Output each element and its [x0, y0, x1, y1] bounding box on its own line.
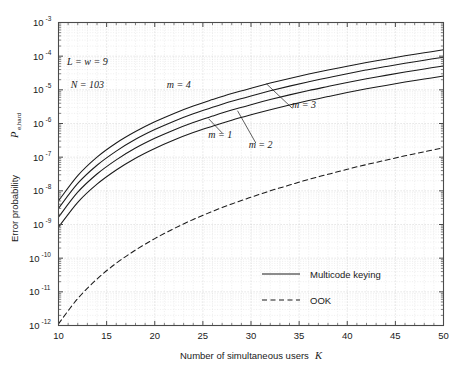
x-tick-label: 25: [198, 330, 209, 341]
svg-text:10: 10: [33, 17, 44, 28]
x-tick-label: 10: [53, 330, 64, 341]
svg-text:10: 10: [33, 51, 44, 62]
svg-text:-10: -10: [42, 251, 52, 258]
svg-text:-6: -6: [46, 116, 52, 123]
annotation-label: m = 4: [167, 79, 191, 90]
svg-text:10: 10: [33, 84, 44, 95]
svg-text:-11: -11: [42, 284, 51, 291]
y-axis-title-subscript: e,hard: [16, 113, 22, 130]
y-axis-title-symbol: P: [9, 131, 20, 139]
legend-label: Multicode keying: [310, 269, 381, 280]
x-tick-label: 45: [390, 330, 401, 341]
annotation-label: L = w = 9: [66, 56, 108, 67]
svg-text:10: 10: [33, 185, 44, 196]
annotation-label: N = 103: [70, 79, 104, 90]
chart-figure: 101520253035404550 10-310-410-510-610-71…: [0, 0, 462, 368]
x-tick-label: 50: [438, 330, 449, 341]
svg-text:-8: -8: [46, 183, 52, 190]
svg-text:-5: -5: [46, 82, 52, 89]
annotation-label: m = 2: [249, 139, 273, 150]
svg-text:10: 10: [29, 253, 40, 264]
annotation-label: m = 1: [208, 129, 232, 140]
x-axis-title-text: Number of simultaneous users: [180, 350, 309, 361]
y-axis-title-text: Error probability: [9, 175, 20, 242]
x-tick-label: 40: [342, 330, 353, 341]
svg-text:-4: -4: [46, 49, 52, 56]
legend-label: OOK: [310, 295, 332, 306]
svg-text:-3: -3: [46, 15, 52, 22]
x-axis-title: Number of simultaneous users K: [180, 350, 323, 361]
error-probability-chart: 101520253035404550 10-310-410-510-610-71…: [0, 0, 462, 368]
svg-text:10: 10: [29, 320, 40, 331]
x-axis-title-symbol: K: [314, 350, 323, 361]
x-tick-label: 20: [149, 330, 160, 341]
annotation-label: m = 3: [292, 99, 316, 110]
svg-text:10: 10: [33, 219, 44, 230]
x-tick-label: 35: [294, 330, 305, 341]
svg-text:10: 10: [33, 152, 44, 163]
svg-text:-12: -12: [42, 318, 52, 325]
x-tick-label: 15: [101, 330, 112, 341]
svg-text:10: 10: [29, 286, 40, 297]
svg-text:-9: -9: [46, 217, 52, 224]
svg-text:-7: -7: [46, 150, 52, 157]
svg-text:10: 10: [33, 118, 44, 129]
x-tick-label: 30: [246, 330, 257, 341]
